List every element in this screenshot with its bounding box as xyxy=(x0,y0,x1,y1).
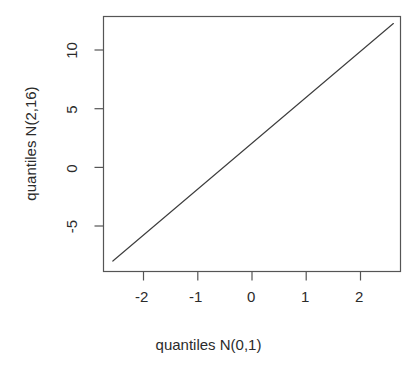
x-tick-label: -1 xyxy=(189,288,202,305)
y-axis-ticks xyxy=(95,50,104,226)
x-axis-ticks xyxy=(144,272,361,281)
x-tick-label: -2 xyxy=(135,288,148,305)
y-tick-label: 0 xyxy=(63,156,80,182)
y-tick-label: 5 xyxy=(63,97,80,123)
x-axis-title: quantiles N(0,1) xyxy=(0,336,417,353)
y-tick-label: 10 xyxy=(63,38,80,64)
qq-plot-figure: -2 -1 0 1 2 -5 0 5 10 quantiles N(0,1) q… xyxy=(0,0,417,375)
x-tick-label: 2 xyxy=(355,288,363,305)
x-tick-label: 0 xyxy=(247,288,255,305)
y-axis-title: quantiles N(2,16) xyxy=(22,16,39,271)
qq-reference-line xyxy=(113,23,394,261)
y-tick-label: -5 xyxy=(63,214,80,240)
x-tick-label: 1 xyxy=(301,288,309,305)
